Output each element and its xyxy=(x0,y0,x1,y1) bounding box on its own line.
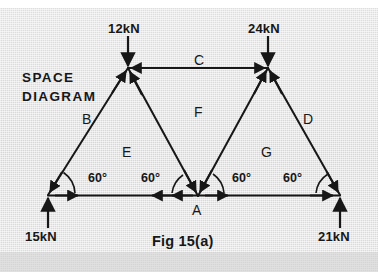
space-label-B: B xyxy=(82,112,91,126)
angle-arc-2 xyxy=(172,175,183,193)
space-label-C: C xyxy=(194,53,204,67)
force-label-bottom-right: 21kN xyxy=(318,230,350,243)
angle-arc-4 xyxy=(316,174,328,193)
arrow-member-D-lower xyxy=(327,172,338,192)
angle-arc-3 xyxy=(213,174,224,193)
space-label-G: G xyxy=(261,145,272,159)
force-label-bottom-left: 15kN xyxy=(25,230,57,243)
space-label-F: F xyxy=(194,105,203,119)
arrow-member-E-right-lower xyxy=(184,170,196,192)
force-label-top-right: 24kN xyxy=(248,22,280,35)
figure-caption: Fig 15(a) xyxy=(152,234,213,249)
arrow-member-B-upper xyxy=(112,71,126,93)
angle-label-2: 60° xyxy=(141,172,160,185)
arrow-member-G-left xyxy=(254,71,266,94)
arrow-member-D-upper xyxy=(270,71,282,94)
force-label-top-left: 12kN xyxy=(108,22,140,35)
space-label-E: E xyxy=(122,145,131,159)
arrow-member-B xyxy=(50,172,62,192)
figure-page: 12kN 24kN 15kN 21kN SPACE DIAGRAM B C D … xyxy=(0,0,378,272)
angle-label-1: 60° xyxy=(88,172,107,185)
angle-label-3: 60° xyxy=(232,172,251,185)
space-diagram-title-line2: DIAGRAM xyxy=(22,90,96,104)
node-label-A: A xyxy=(192,203,201,217)
space-diagram-title-line1: SPACE xyxy=(22,71,75,85)
angle-label-4: 60° xyxy=(283,172,302,185)
arrow-member-E-right xyxy=(130,72,142,95)
angle-arc-1 xyxy=(64,173,76,194)
arrow-member-G-left-lower xyxy=(200,170,212,192)
space-label-D: D xyxy=(303,112,313,126)
